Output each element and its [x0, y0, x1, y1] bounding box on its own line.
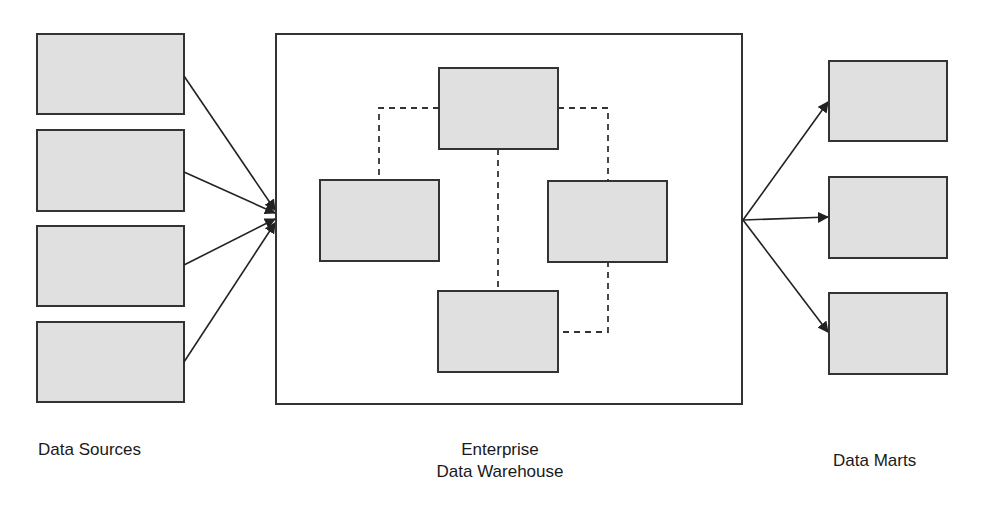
warehouse-box-left — [320, 180, 439, 261]
arrow-mart-1 — [743, 102, 828, 220]
warehouse-label-line2: Data Warehouse — [380, 461, 620, 483]
warehouse-box-right — [548, 181, 667, 262]
warehouse-label: Enterprise Data Warehouse — [380, 439, 620, 483]
mart-box-1 — [829, 61, 947, 141]
data-sources-group — [37, 34, 184, 402]
arrow-source-2 — [184, 172, 275, 213]
source-box-1 — [37, 34, 184, 114]
source-box-3 — [37, 226, 184, 306]
mart-box-3 — [829, 293, 947, 374]
warehouse-label-line1: Enterprise — [380, 439, 620, 461]
warehouse-box-top — [439, 68, 558, 149]
arrow-mart-2 — [743, 217, 828, 220]
source-arrows — [184, 76, 275, 362]
arrow-mart-3 — [743, 220, 828, 332]
source-box-2 — [37, 130, 184, 211]
data-marts-group — [829, 61, 947, 374]
data-warehouse-diagram — [0, 0, 983, 512]
data-marts-label: Data Marts — [833, 450, 916, 472]
data-sources-label: Data Sources — [38, 439, 141, 461]
arrow-source-3 — [184, 219, 275, 265]
mart-arrows — [743, 102, 828, 332]
warehouse-box-bottom — [438, 291, 558, 372]
mart-box-2 — [829, 177, 947, 258]
arrow-source-1 — [184, 76, 275, 210]
source-box-4 — [37, 322, 184, 402]
arrow-source-4 — [184, 223, 275, 362]
